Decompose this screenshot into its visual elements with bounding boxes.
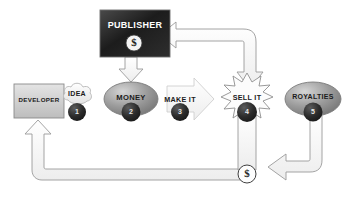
diagram-graphics [0,0,355,208]
connector-royalties-to-cash [268,112,322,180]
cash-dollar-glyph: $ [239,167,255,179]
node-publisher[interactable] [100,10,170,57]
publisher-dollar-glyph: $ [126,36,142,48]
diagram-canvas: PUBLISHER $ DEVELOPER IDEA MONEY MAKE IT… [0,0,355,208]
step-number-4: 4 [238,108,256,115]
step-number-3: 3 [171,108,189,115]
node-developer[interactable] [14,84,64,118]
connector-cash-to-developer [25,120,244,180]
step-number-1: 1 [68,108,86,115]
step-number-5: 5 [304,108,322,115]
connector-publisher-to-money [119,57,143,82]
node-idea[interactable] [64,83,92,104]
step-number-2: 2 [122,108,140,115]
